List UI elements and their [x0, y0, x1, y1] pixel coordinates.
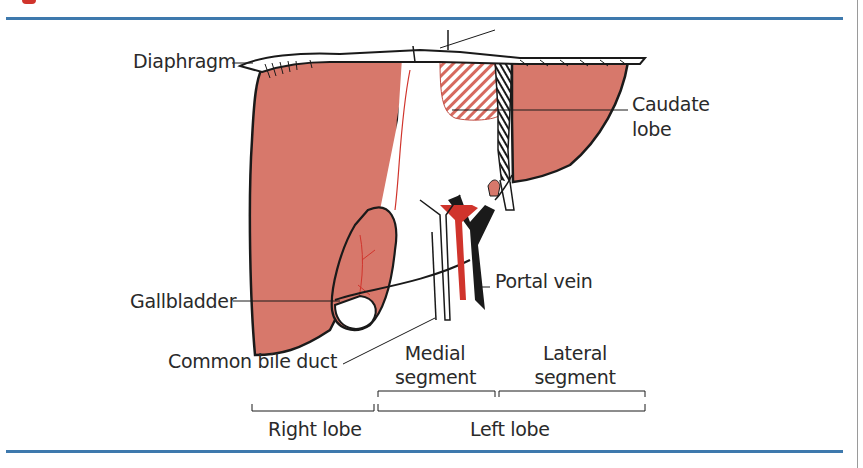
- falciform-ligament: [495, 60, 512, 185]
- label-left-lobe: Left lobe: [470, 418, 550, 440]
- left-lobe-bracket: [378, 404, 645, 411]
- label-diaphragm: Diaphragm: [133, 50, 236, 72]
- label-medial-segment-line2: segment: [395, 366, 475, 388]
- label-lateral-segment-line2: segment: [530, 366, 620, 388]
- label-caudate-lobe-line2: lobe: [632, 118, 671, 140]
- label-right-lobe: Right lobe: [268, 418, 362, 440]
- label-lateral-segment-line1: Lateral: [530, 342, 620, 364]
- label-common-bile-duct: Common bile duct: [168, 350, 337, 372]
- label-gallbladder: Gallbladder: [130, 290, 236, 312]
- left-lobe-shape: [512, 62, 628, 182]
- medial-segment-bracket: [378, 391, 495, 397]
- label-caudate-lobe-line1: Caudate: [632, 93, 710, 115]
- liver-illustration: [0, 0, 863, 468]
- bottom-divider-rule: [6, 450, 843, 453]
- right-lobe-bracket: [252, 404, 374, 411]
- label-portal-vein: Portal vein: [495, 270, 593, 292]
- label-medial-segment-line1: Medial: [395, 342, 475, 364]
- lateral-segment-bracket: [499, 391, 645, 397]
